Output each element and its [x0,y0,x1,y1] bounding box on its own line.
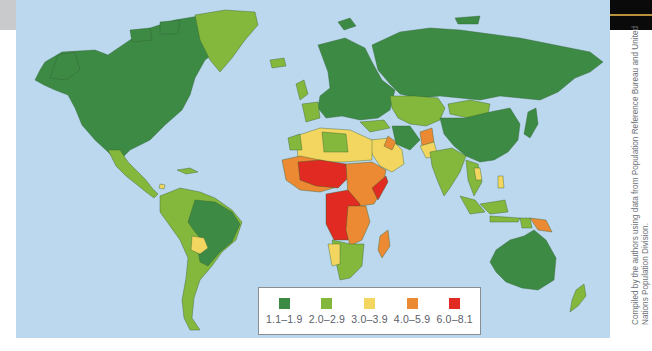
legend-label: 2.0–2.9 [309,313,345,325]
turkey [360,120,390,132]
legend-swatch [449,298,460,309]
legend-label: 4.0–5.9 [394,313,430,325]
legend-swatch [364,298,375,309]
central-asia [390,96,445,126]
legend-item-2: 2.0–2.9 [309,298,345,325]
australia [490,230,556,290]
north-america [35,15,225,162]
legend-label: 3.0–3.9 [351,313,387,325]
legend-swatch [407,298,418,309]
russia [372,28,603,100]
legend-label: 6.0–8.1 [436,313,472,325]
indonesia [460,196,520,222]
new-zealand [570,284,586,312]
mexico [108,150,158,198]
legend-item-1: 1.1–1.9 [266,298,302,325]
legend-label: 1.1–1.9 [266,313,302,325]
legend-item-4: 4.0–5.9 [394,298,430,325]
legend-swatch [279,298,290,309]
india [430,148,466,196]
papua-new-guinea [530,218,552,232]
greenland [195,10,258,72]
source-credit: Compiled by the authors using data from … [631,25,651,325]
legend-swatch [321,298,332,309]
madagascar [378,230,390,258]
gold-rule [610,14,652,16]
legend-item-5: 6.0–8.1 [436,298,472,325]
legend-item-3: 3.0–3.9 [351,298,387,325]
legend: 1.1–1.9 2.0–2.9 3.0–3.9 4.0–5.9 6.0–8.1 [258,287,481,335]
corner-tab [0,0,16,30]
